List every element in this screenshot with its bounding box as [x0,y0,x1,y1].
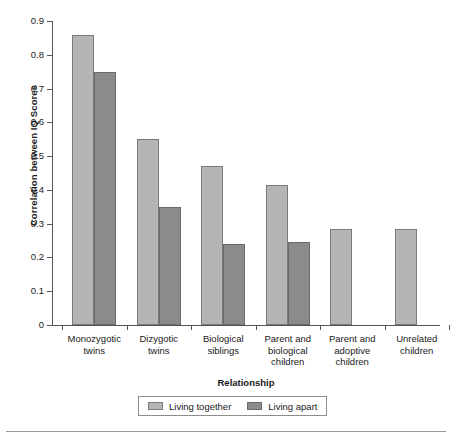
bar [201,166,223,325]
y-tick: 0.2 [47,257,52,258]
y-tick-label: 0.9 [31,15,44,26]
x-axis-category-label: Parent andadoptivechildren [318,333,386,368]
y-tick-label: 0.7 [31,83,44,94]
y-tick: 0.8 [47,55,52,56]
y-tick-label: 0.3 [31,218,44,229]
x-axis-category-label: Dizygotictwins [125,333,193,356]
x-axis-category-label: Parent andbiologicalchildren [254,333,322,368]
bar [159,207,181,325]
y-tick-label: 0.2 [31,251,44,262]
x-tick [127,325,128,330]
legend-swatch [247,402,262,410]
x-axis-category-label: Unrelatedchildren [383,333,451,356]
y-tick: 0.6 [47,122,52,123]
plot-area: 00.10.20.30.40.50.60.70.80.9 Monozygotic… [52,21,440,325]
x-tick [191,325,192,330]
legend-item: Living apart [247,401,317,412]
x-tick [385,325,386,330]
x-tick [256,325,257,330]
x-axis-title: Relationship [52,377,440,388]
bar [94,72,116,325]
x-tick [449,325,450,330]
bar-chart-figure: Correlation between IQ Scores 00.10.20.3… [0,0,452,444]
legend-item: Living together [148,401,231,412]
y-axis-line [52,21,53,325]
y-tick-label: 0.4 [31,184,44,195]
legend-swatch [148,402,163,410]
y-tick-label: 0.1 [31,285,44,296]
x-axis-category-label: Monozygotictwins [60,333,128,356]
bottom-divider [6,431,446,432]
bar [330,229,352,325]
y-tick-label: 0.5 [31,150,44,161]
y-tick: 0.4 [47,190,52,191]
bar [223,244,245,325]
bar [72,35,94,325]
bar [395,229,417,325]
y-tick: 0.9 [47,21,52,22]
y-tick: 0.7 [47,89,52,90]
y-tick: 0.5 [47,156,52,157]
y-tick-label: 0 [39,319,44,330]
x-tick [320,325,321,330]
y-tick: 0.3 [47,224,52,225]
x-axis-category-label: Biologicalsiblings [189,333,257,356]
y-tick-label: 0.8 [31,49,44,60]
y-tick: 0 [47,325,52,326]
legend-label: Living apart [268,401,317,412]
legend-label: Living together [169,401,231,412]
y-tick: 0.1 [47,291,52,292]
bar [288,242,310,325]
x-axis-line [52,325,440,326]
x-tick [62,325,63,330]
bar [137,139,159,325]
bar [266,185,288,325]
y-tick-label: 0.6 [31,116,44,127]
chart-legend: Living togetherLiving apart [138,396,327,416]
